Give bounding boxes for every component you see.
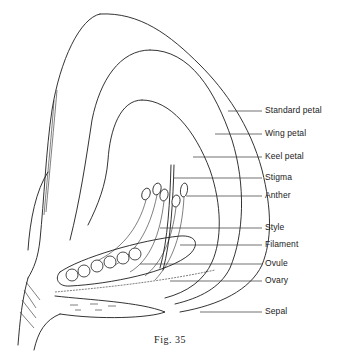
flower-section-diagram: Standard petal Wing petal Keel petal Sti… [0,0,340,355]
label-ovule: Ovule [265,258,288,268]
figure-caption: Fig. 35 [0,334,340,345]
label-anther: Anther [265,190,291,200]
label-filament: Filament [265,239,298,249]
sepal-outline [55,296,165,318]
standard-petal-outline [28,14,100,278]
label-stigma: Stigma [265,172,292,182]
label-wing-petal: Wing petal [265,128,306,138]
label-keel-petal: Keel petal [265,151,304,161]
label-sepal: Sepal [265,306,287,316]
label-standard-petal: Standard petal [265,105,322,115]
label-style: Style [265,222,284,232]
keel-petal-outline [88,100,142,225]
label-ovary: Ovary [265,275,288,285]
leader-lines [140,111,262,312]
